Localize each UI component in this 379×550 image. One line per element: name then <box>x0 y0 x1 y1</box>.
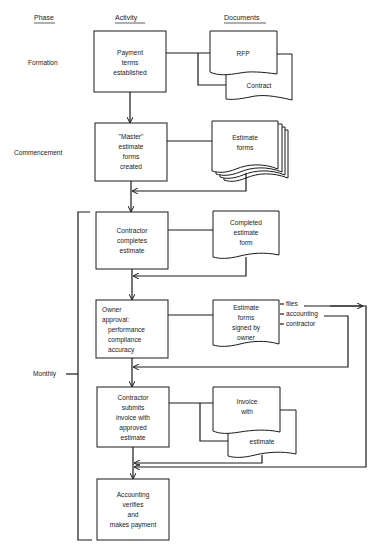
phase-monthly: Monthly <box>33 370 57 378</box>
svg-text:estimate: estimate <box>234 229 259 236</box>
svg-text:and: and <box>127 511 138 518</box>
svg-text:signed by: signed by <box>232 324 261 332</box>
svg-text:Estimate: Estimate <box>233 304 259 311</box>
svg-text:with: with <box>240 408 253 415</box>
activity-contractor-submits-invoice: Contractor submits invoice with approved… <box>97 387 169 447</box>
svg-text:Payment: Payment <box>117 49 143 57</box>
monthly-bracket <box>66 212 92 540</box>
svg-text:estimate: estimate <box>121 434 146 441</box>
svg-text:Contractor: Contractor <box>118 394 150 401</box>
svg-text:Estimate: Estimate <box>232 134 258 141</box>
distribution: files accounting contractor <box>280 300 362 327</box>
activity-payment-terms: Payment terms established <box>94 31 166 92</box>
svg-text:compliance: compliance <box>108 336 142 344</box>
svg-text:created: created <box>120 163 142 170</box>
activity-owner-approval: Owner approval: performance compliance a… <box>96 300 168 358</box>
document-estimate-forms-stack: Estimate forms <box>212 121 288 181</box>
svg-text:invoice with: invoice with <box>116 414 150 421</box>
svg-text:accuracy: accuracy <box>108 346 135 354</box>
svg-text:Completed: Completed <box>230 219 262 227</box>
dist-contractor: contractor <box>286 320 316 327</box>
dist-files: files <box>286 300 298 307</box>
document-invoice: Invoice with <box>213 387 280 433</box>
document-rfp: RFP <box>210 31 277 75</box>
header-documents: Documents <box>224 14 260 21</box>
svg-text:owner: owner <box>237 334 256 341</box>
phase-formation: Formation <box>28 59 58 66</box>
svg-text:approved: approved <box>119 424 147 432</box>
svg-text:completes: completes <box>117 237 148 245</box>
svg-text:forms: forms <box>238 314 255 321</box>
header-activity: Activity <box>115 14 138 22</box>
svg-text:"Master": "Master" <box>119 133 144 140</box>
svg-text:makes payment: makes payment <box>110 521 157 529</box>
header-phase: Phase <box>34 14 54 21</box>
svg-text:terms: terms <box>122 59 139 66</box>
svg-text:Contractor: Contractor <box>117 227 149 234</box>
activity-master-estimate-forms: "Master" estimate forms created <box>95 123 167 181</box>
document-signed-estimate-forms: Estimate forms signed by owner <box>213 300 279 346</box>
svg-text:Owner: Owner <box>102 306 122 313</box>
svg-text:established: established <box>113 69 147 76</box>
phase-commencement: Commencement <box>14 149 63 156</box>
payment-process-flowchart: Phase Activity Documents Formation Comme… <box>0 0 379 550</box>
svg-text:Contract: Contract <box>247 82 272 89</box>
svg-text:performance: performance <box>108 326 145 334</box>
svg-text:estimate: estimate <box>120 247 145 254</box>
dist-accounting: accounting <box>286 310 318 318</box>
activity-accounting-verifies: Accounting verifies and makes payment <box>97 479 169 540</box>
document-completed-estimate-form: Completed estimate form <box>213 211 279 258</box>
svg-text:verifies: verifies <box>123 501 145 508</box>
svg-text:Invoice: Invoice <box>237 398 258 405</box>
svg-text:form: form <box>239 239 253 246</box>
column-headers: Phase Activity Documents <box>34 14 266 23</box>
svg-text:estimate: estimate <box>119 143 144 150</box>
svg-text:submits: submits <box>122 404 145 411</box>
svg-text:forms: forms <box>123 153 140 160</box>
activity-contractor-completes-estimate: Contractor completes estimate <box>96 212 168 269</box>
svg-text:approval:: approval: <box>102 316 129 324</box>
svg-text:RFP: RFP <box>236 50 250 57</box>
svg-text:forms: forms <box>237 144 254 151</box>
svg-text:Accounting: Accounting <box>117 491 150 499</box>
svg-text:estimate: estimate <box>250 438 275 445</box>
